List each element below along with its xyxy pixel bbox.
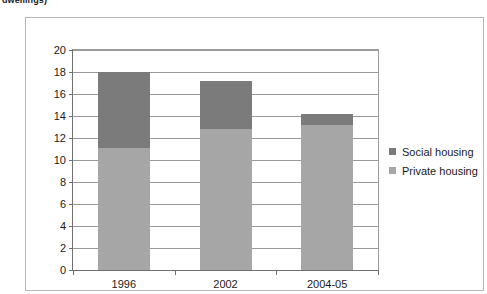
y-axis-tick-label: 6 <box>60 198 66 210</box>
chart-figure: dwellings) 02468101214161820 19962002200… <box>0 0 487 294</box>
y-axis-tick-mark <box>69 204 73 205</box>
y-axis-tick-label: 12 <box>54 132 66 144</box>
x-axis-tick-mark <box>73 270 74 275</box>
y-axis-tick-mark <box>69 182 73 183</box>
bar-group[interactable] <box>301 50 353 270</box>
x-axis-tick-mark <box>175 270 176 275</box>
y-axis-tick-mark <box>69 116 73 117</box>
y-axis-tick-label: 2 <box>60 242 66 254</box>
legend-item-label: Private housing <box>402 165 478 177</box>
x-axis-tick-label: 2002 <box>213 278 237 290</box>
bar-segment[interactable] <box>98 148 150 270</box>
y-axis-tick-label: 18 <box>54 66 66 78</box>
bar-segment[interactable] <box>98 72 150 148</box>
chart-legend: Social housingPrivate housing <box>389 142 487 180</box>
y-axis-tick-mark <box>69 72 73 73</box>
y-axis-tick-label: 8 <box>60 176 66 188</box>
x-axis-tick-label: 2004-05 <box>307 278 347 290</box>
x-axis-tick-mark <box>276 270 277 275</box>
bar-group[interactable] <box>200 50 252 270</box>
y-axis-tick-mark <box>69 94 73 95</box>
legend-item-label: Social housing <box>402 146 474 158</box>
bar-segment[interactable] <box>200 129 252 270</box>
legend-item[interactable]: Private housing <box>389 161 487 180</box>
x-axis-tick-label: 1996 <box>112 278 136 290</box>
y-axis-tick-mark <box>69 248 73 249</box>
legend-item[interactable]: Social housing <box>389 142 487 161</box>
y-axis-tick-label: 14 <box>54 110 66 122</box>
chart-frame: 02468101214161820 199620022004-05 Social… <box>25 17 484 291</box>
caption-fragment: dwellings) <box>2 0 47 6</box>
y-axis-tick-label: 16 <box>54 88 66 100</box>
bar-segment[interactable] <box>301 114 353 125</box>
bar-segment[interactable] <box>200 81 252 129</box>
y-axis-tick-label: 0 <box>60 264 66 276</box>
y-axis-tick-label: 4 <box>60 220 66 232</box>
y-axis-tick-mark <box>69 50 73 51</box>
y-axis-tick-label: 20 <box>54 44 66 56</box>
y-axis-tick-mark <box>69 138 73 139</box>
y-axis-tick-mark <box>69 160 73 161</box>
bar-segment[interactable] <box>301 125 353 270</box>
legend-swatch-icon <box>389 148 396 155</box>
plot-area: 02468101214161820 199620022004-05 <box>72 49 379 271</box>
y-axis-tick-mark <box>69 226 73 227</box>
legend-swatch-icon <box>389 167 396 174</box>
bar-group[interactable] <box>98 50 150 270</box>
y-axis-tick-label: 10 <box>54 154 66 166</box>
x-axis-tick-mark <box>378 270 379 275</box>
